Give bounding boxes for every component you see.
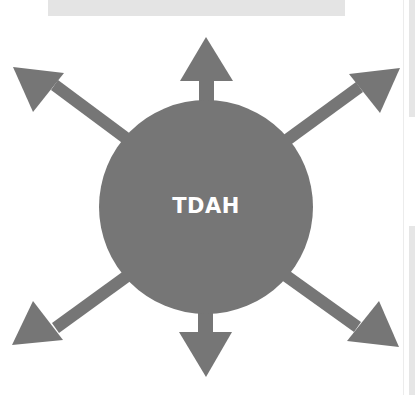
arrow-up-left-icon [13, 67, 132, 145]
center-label: TDAH [106, 192, 306, 220]
diagram-canvas: TDAH [0, 0, 415, 395]
arrow-up-right-icon [282, 68, 400, 146]
arrow-down-right-icon [280, 269, 399, 347]
arrow-down-left-icon [12, 270, 132, 345]
arrow-up-icon [180, 37, 233, 108]
arrow-down-icon [179, 305, 232, 377]
